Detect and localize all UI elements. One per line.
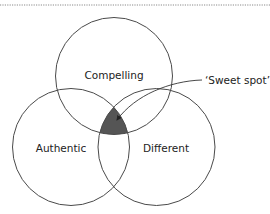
label-sweet-spot: ‘Sweet spot’	[205, 74, 270, 86]
label-authentic: Authentic	[36, 142, 87, 154]
venn-diagram: Compelling Authentic Different ‘Sweet sp…	[0, 0, 270, 214]
sweet-spot-pointer	[117, 80, 202, 120]
label-different: Different	[143, 142, 189, 154]
label-compelling: Compelling	[84, 69, 143, 81]
